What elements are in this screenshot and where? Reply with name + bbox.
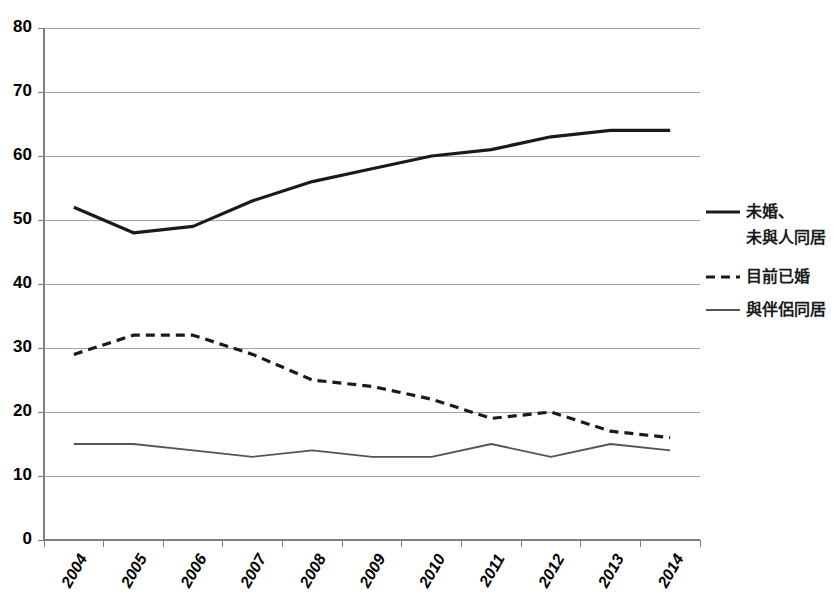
x-tick-label-2010: 2010 [415, 551, 448, 591]
y-tick-label: 10 [13, 465, 32, 484]
x-tick-label-2008: 2008 [296, 551, 329, 591]
series-line-0 [74, 130, 670, 232]
x-tick-label-2009: 2009 [356, 551, 389, 591]
series-line-1 [74, 335, 670, 437]
y-tick-label: 40 [13, 273, 32, 292]
y-tick-label: 20 [13, 401, 32, 420]
legend: 未婚、未與人同居目前已婚與伴侶同居 [706, 202, 826, 319]
gridlines [44, 28, 700, 540]
y-tick-label: 30 [13, 337, 32, 356]
data-series [74, 130, 670, 456]
x-tick-label-2012: 2012 [534, 551, 567, 591]
y-tick-label: 60 [13, 145, 32, 164]
x-tick-label-2014: 2014 [654, 551, 687, 591]
legend-label-0-line2[interactable]: 未與人同居 [745, 228, 826, 247]
axes [38, 28, 700, 547]
series-line-2 [74, 444, 670, 457]
y-tick-label: 0 [23, 529, 32, 548]
x-tick-label-2005: 2005 [117, 550, 151, 591]
y-axis-tick-labels: 01020304050607080 [13, 17, 32, 548]
x-tick-label-2006: 2006 [177, 551, 210, 591]
y-tick-label: 70 [13, 81, 32, 100]
line-chart: 01020304050607080 2004200520062007200820… [0, 0, 838, 607]
y-tick-label: 80 [13, 17, 32, 36]
chart-canvas: 01020304050607080 2004200520062007200820… [0, 0, 838, 607]
x-axis-tick-labels: 2004200520062007200820092010201120122013… [57, 550, 686, 591]
legend-label-0[interactable]: 未婚、 [745, 202, 794, 221]
x-tick-label-2013: 2013 [594, 551, 627, 591]
x-tick-label-2004: 2004 [57, 551, 90, 591]
y-tick-label: 50 [13, 209, 32, 228]
legend-label-2[interactable]: 與伴侶同居 [746, 300, 826, 319]
x-tick-label-2011: 2011 [475, 551, 507, 590]
x-tick-label-2007: 2007 [236, 550, 270, 591]
legend-label-1[interactable]: 目前已婚 [746, 267, 810, 286]
